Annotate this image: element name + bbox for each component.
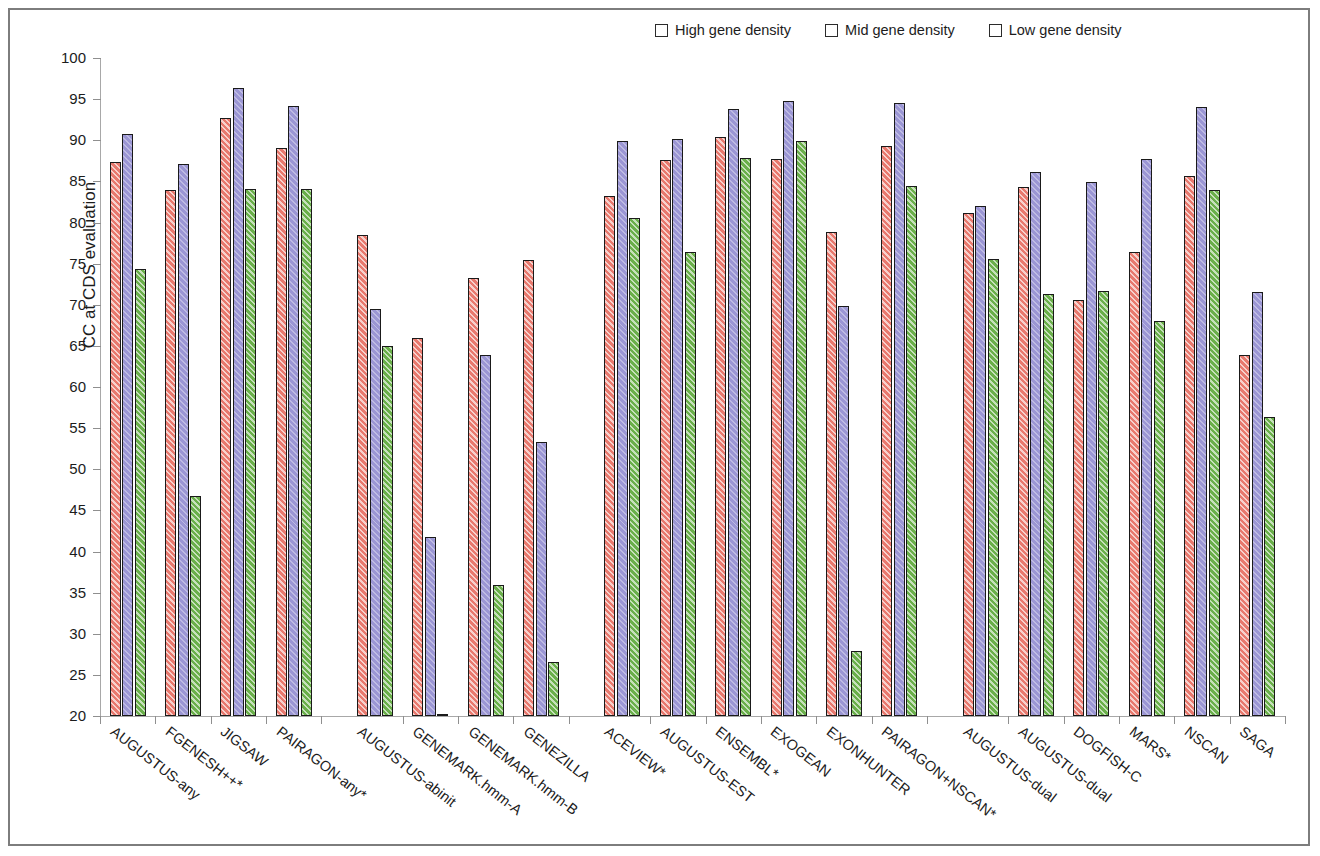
x-axis-tick bbox=[1285, 716, 1286, 724]
bar-mid bbox=[233, 88, 244, 716]
bar-cluster bbox=[523, 58, 559, 716]
bar-cluster bbox=[276, 58, 312, 716]
x-axis-tick bbox=[211, 716, 212, 724]
y-axis-tick-label: 70 bbox=[46, 297, 86, 312]
bar-low bbox=[906, 186, 917, 716]
legend-swatch-high-icon bbox=[655, 24, 668, 37]
bar-mid bbox=[975, 206, 986, 716]
bar-mid bbox=[617, 141, 628, 716]
y-axis-tick-label: 55 bbox=[46, 420, 86, 435]
bar-low bbox=[437, 714, 448, 716]
x-axis-line bbox=[100, 716, 1285, 717]
x-axis-category-label: AUGUSTUS-EST bbox=[658, 724, 756, 805]
chart-page: High gene density Mid gene density Low g… bbox=[0, 0, 1320, 856]
x-axis-tick bbox=[155, 716, 156, 724]
bar-mid bbox=[370, 309, 381, 716]
bar-mid bbox=[122, 134, 133, 716]
y-axis-tick-label: 90 bbox=[46, 132, 86, 147]
bar-mid bbox=[178, 164, 189, 716]
x-axis-tick bbox=[1008, 716, 1009, 724]
bar-mid bbox=[728, 109, 739, 716]
bar-mid bbox=[425, 537, 436, 716]
bar-low bbox=[493, 585, 504, 716]
y-axis-tick-label: 65 bbox=[46, 338, 86, 353]
bar-high bbox=[1184, 176, 1195, 716]
bar-low bbox=[190, 496, 201, 716]
bar-high bbox=[826, 232, 837, 716]
bar-mid bbox=[480, 355, 491, 716]
legend-label-high: High gene density bbox=[675, 23, 791, 38]
x-axis-tick bbox=[403, 716, 404, 724]
bar-cluster bbox=[357, 58, 393, 716]
y-axis-tick-label: 40 bbox=[46, 544, 86, 559]
bar-cluster bbox=[604, 58, 640, 716]
bar-high bbox=[412, 338, 423, 716]
bar-mid bbox=[1141, 159, 1152, 716]
y-axis-tick-label: 45 bbox=[46, 502, 86, 517]
x-axis-tick bbox=[650, 716, 651, 724]
bar-cluster bbox=[881, 58, 917, 716]
bar-high bbox=[1018, 187, 1029, 716]
legend-label-mid: Mid gene density bbox=[845, 23, 955, 38]
x-axis-category-label: JIGSAW bbox=[218, 724, 270, 769]
bar-cluster bbox=[771, 58, 807, 716]
legend-swatch-mid-icon bbox=[825, 24, 838, 37]
bar-cluster bbox=[1073, 58, 1109, 716]
bar-high bbox=[660, 160, 671, 716]
bar-low bbox=[1154, 321, 1165, 716]
chart-legend: High gene density Mid gene density Low g… bbox=[655, 18, 1122, 42]
x-axis-tick bbox=[816, 716, 817, 724]
x-axis-tick bbox=[569, 716, 570, 724]
bar-mid bbox=[1030, 172, 1041, 716]
x-axis-tick bbox=[872, 716, 873, 724]
bar-mid bbox=[536, 442, 547, 716]
bar-high bbox=[881, 146, 892, 716]
bars-layer bbox=[100, 58, 1285, 716]
bar-mid bbox=[288, 106, 299, 716]
bar-high bbox=[165, 190, 176, 716]
y-axis-tick-label: 95 bbox=[46, 91, 86, 106]
x-axis-category-label: AUGUSTUS-dual bbox=[1016, 724, 1114, 805]
bar-mid bbox=[1252, 292, 1263, 716]
x-axis-tick bbox=[1230, 716, 1231, 724]
x-axis-category-label: AUGUSTUS-abinit bbox=[355, 724, 459, 809]
bar-high bbox=[715, 137, 726, 716]
y-axis-tick-label: 35 bbox=[46, 585, 86, 600]
y-axis-tick-label: 80 bbox=[46, 215, 86, 230]
x-axis-category-label: NSCAN bbox=[1182, 724, 1231, 767]
bar-cluster bbox=[1239, 58, 1275, 716]
y-axis-tick-label: 25 bbox=[46, 667, 86, 682]
bar-low bbox=[796, 141, 807, 716]
bar-low bbox=[988, 259, 999, 716]
bar-high bbox=[963, 213, 974, 716]
bar-low bbox=[1264, 417, 1275, 716]
bar-low bbox=[301, 189, 312, 716]
bar-low bbox=[245, 189, 256, 716]
bar-cluster bbox=[412, 58, 448, 716]
x-axis-tick bbox=[1174, 716, 1175, 724]
bar-low bbox=[1043, 294, 1054, 716]
y-axis-tick-label: 85 bbox=[46, 173, 86, 188]
bar-low bbox=[135, 269, 146, 716]
bar-mid bbox=[1086, 182, 1097, 716]
x-axis-tick bbox=[706, 716, 707, 724]
bar-mid bbox=[672, 139, 683, 716]
x-axis-category-label: SAGA bbox=[1237, 724, 1278, 760]
bar-high bbox=[468, 278, 479, 716]
bar-low bbox=[1098, 291, 1109, 716]
bar-mid bbox=[783, 101, 794, 716]
bar-mid bbox=[1196, 107, 1207, 716]
bar-cluster bbox=[1129, 58, 1165, 716]
bar-cluster bbox=[826, 58, 862, 716]
bar-high bbox=[1239, 355, 1250, 716]
bar-cluster bbox=[220, 58, 256, 716]
bar-low bbox=[382, 346, 393, 716]
x-axis-tick bbox=[1064, 716, 1065, 724]
bar-high bbox=[604, 196, 615, 716]
plot-area: CC at CDS evaluation 1009590858075706560… bbox=[0, 0, 1320, 856]
legend-entry-high: High gene density bbox=[655, 23, 791, 38]
bar-cluster bbox=[1018, 58, 1054, 716]
x-axis-tick bbox=[458, 716, 459, 724]
bar-cluster bbox=[165, 58, 201, 716]
bar-high bbox=[771, 159, 782, 716]
